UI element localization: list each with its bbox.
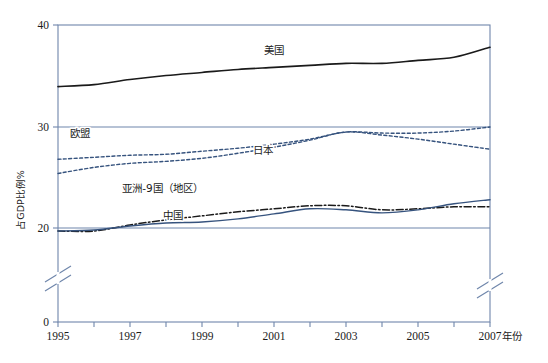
y-axis-title: 占GDP比例% [15,170,26,229]
series-label-1: 欧盟 [70,127,91,139]
plot-frame [58,25,490,322]
series-line-2 [58,132,490,174]
x-tick-label-1997: 1997 [119,330,142,342]
series-label-0: 美国 [264,44,284,56]
x-tick-label-1995: 1995 [47,330,70,342]
chart-container: 02030401995199719992001200320052007美国美国欧… [0,0,548,363]
axis-break-gap-right [489,279,492,291]
series-label-4: 中国 [163,209,183,221]
x-axis-title: 年份 [502,330,523,342]
x-tick-label-1999: 1999 [191,330,214,342]
x-tick-label-2007: 2007 [479,330,502,342]
x-tick-label-2005: 2005 [407,330,430,342]
y-tick-label-30: 30 [38,121,50,133]
series-label-3: 亚洲-9国（地区） [122,182,202,194]
line-chart: 02030401995199719992001200320052007美国美国欧… [0,0,548,363]
y-tick-label-20: 20 [38,222,50,234]
y-tick-label-40: 40 [38,19,50,31]
x-tick-label-2003: 2003 [335,330,358,342]
x-tick-label-2001: 2001 [263,330,286,342]
axis-break-gap-left [57,272,60,284]
y-tick-label-0: 0 [43,316,49,328]
series-line-1 [58,127,490,159]
series-line-4 [58,200,490,231]
series-label-2: 日本 [253,144,274,156]
